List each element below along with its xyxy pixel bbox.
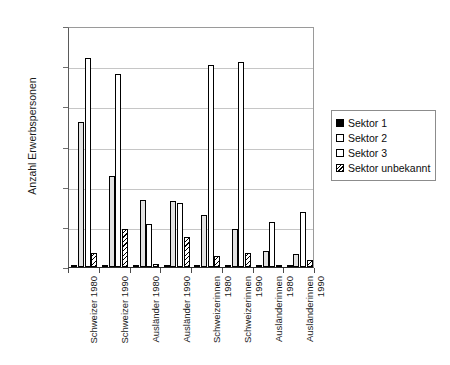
- bar: [208, 65, 214, 267]
- bar: [276, 265, 282, 267]
- bar-group: [223, 28, 254, 267]
- legend-label: Sektor unbekannt: [348, 162, 430, 174]
- legend-label: Sektor 1: [348, 117, 387, 129]
- legend-swatch-icon: [336, 119, 344, 127]
- legend-item[interactable]: Sektor 2: [336, 130, 430, 145]
- x-category-label: Ausländerinnen 1990: [304, 276, 326, 365]
- bar: [194, 265, 200, 267]
- bar: [85, 58, 91, 267]
- x-tick-mark: [160, 268, 161, 273]
- bar-group: [254, 28, 285, 267]
- bar: [225, 265, 231, 267]
- bar: [293, 254, 299, 267]
- y-axis-title: Anzahl Erwerbspersonen: [26, 36, 38, 236]
- bar-group: [100, 28, 131, 267]
- bar: [122, 229, 128, 267]
- x-tick-mark: [99, 268, 100, 273]
- x-tick-mark: [130, 268, 131, 273]
- bar: [263, 251, 269, 267]
- bar: [91, 253, 97, 267]
- x-category-label: Schweizerinnen 1980: [211, 276, 233, 365]
- legend-label: Sektor 2: [348, 132, 387, 144]
- x-category-label: Ausländer 1980: [150, 276, 161, 365]
- bar: [115, 74, 121, 267]
- x-category-label: Schweizerinnen 1990: [242, 276, 264, 365]
- bar: [256, 265, 262, 267]
- x-category-label: Schweizer 1980: [88, 276, 99, 365]
- x-tick-mark: [253, 268, 254, 273]
- x-tick-mark: [222, 268, 223, 273]
- x-tick-mark: [283, 268, 284, 273]
- bar-group: [284, 28, 315, 267]
- bar: [153, 264, 159, 267]
- bar-chart: Anzahl Erwerbspersonen 05000100001500020…: [0, 0, 450, 365]
- legend-swatch-icon: [336, 134, 344, 142]
- bar: [71, 265, 77, 267]
- bar: [164, 265, 170, 267]
- x-category-label: Schweizer 1990: [119, 276, 130, 365]
- bar: [78, 122, 84, 267]
- legend-item[interactable]: Sektor unbekannt: [336, 160, 430, 175]
- bar-group: [161, 28, 192, 267]
- bar-group: [69, 28, 100, 267]
- bar-group: [131, 28, 162, 267]
- x-tick-mark: [68, 268, 69, 273]
- legend-item[interactable]: Sektor 3: [336, 145, 430, 160]
- bar: [109, 176, 115, 267]
- bar: [146, 224, 152, 267]
- bar: [102, 265, 108, 267]
- plot-area: [68, 27, 314, 268]
- bar: [307, 260, 313, 267]
- bar: [245, 253, 251, 267]
- bar: [238, 62, 244, 267]
- bar: [201, 215, 207, 267]
- x-tick-mark: [314, 268, 315, 273]
- legend-item[interactable]: Sektor 1: [336, 115, 430, 130]
- legend-label: Sektor 3: [348, 147, 387, 159]
- bar: [177, 203, 183, 267]
- legend-swatch-icon: [336, 149, 344, 157]
- x-category-label: Ausländerinnen 1980: [273, 276, 295, 365]
- bar: [232, 229, 238, 267]
- legend-swatch-icon: [336, 164, 344, 172]
- bar: [300, 212, 306, 267]
- bar: [184, 237, 190, 267]
- bar: [214, 256, 220, 267]
- bar: [133, 265, 139, 267]
- chart-legend: Sektor 1Sektor 2Sektor 3Sektor unbekannt: [331, 110, 436, 181]
- bars-layer: [69, 28, 313, 267]
- bar: [140, 200, 146, 267]
- bar: [287, 265, 293, 267]
- bar-group: [192, 28, 223, 267]
- x-category-label: Ausländer 1990: [181, 276, 192, 365]
- x-tick-mark: [191, 268, 192, 273]
- bar: [269, 222, 275, 267]
- bar: [170, 201, 176, 267]
